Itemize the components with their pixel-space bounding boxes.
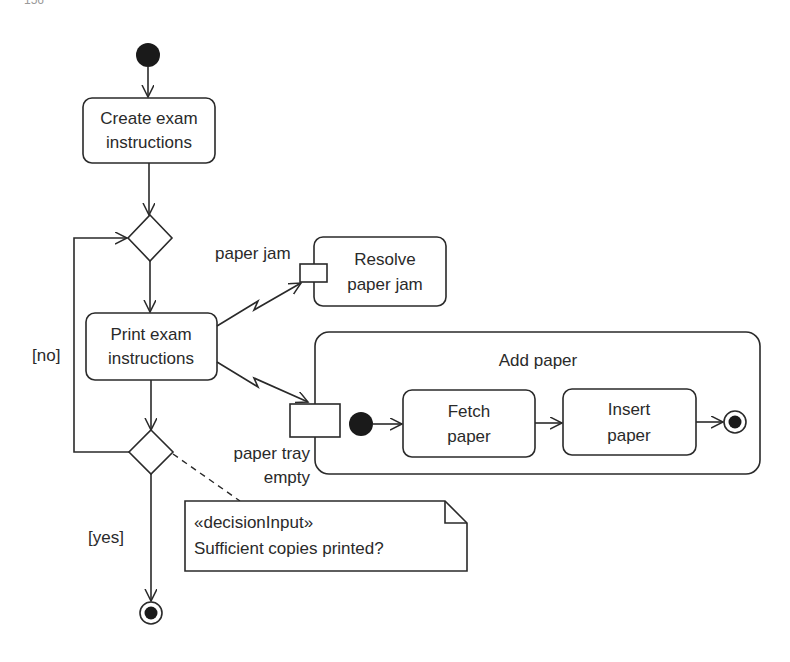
note-text: Sufficient copies printed? [194, 539, 384, 558]
interrupt-label-paper-tray: paper tray [233, 444, 310, 463]
input-pin-resolve [300, 264, 327, 282]
action-label: instructions [106, 133, 192, 152]
action-label: paper [447, 427, 491, 446]
decision-node [129, 430, 173, 474]
interrupt-label-paper-tray: empty [264, 468, 311, 487]
action-label: paper [607, 426, 651, 445]
inner-initial-node [349, 412, 373, 436]
initial-node [136, 43, 160, 67]
page-number: 156 [24, 0, 44, 7]
activity-title: Add paper [499, 351, 578, 370]
activity-diagram: 156 Create exam instructions Print exam … [0, 0, 790, 662]
guard-no: [no] [32, 346, 60, 365]
action-insert-paper[interactable]: Insert paper [563, 389, 696, 455]
action-label: Fetch [448, 402, 491, 421]
action-resolve-paper-jam[interactable]: Resolve paper jam [314, 237, 446, 306]
interrupting-edge-paper-tray-empty [217, 362, 308, 402]
activity-final-node [140, 602, 162, 624]
action-label: Resolve [354, 250, 415, 269]
note-stereotype: «decisionInput» [194, 513, 313, 532]
action-label: instructions [108, 349, 194, 368]
decision-input-note: «decisionInput» Sufficient copies printe… [185, 501, 467, 571]
action-label: Print exam [110, 325, 191, 344]
action-print-exam-instructions[interactable]: Print exam instructions [86, 313, 217, 380]
interrupt-label-paper-jam: paper jam [215, 244, 291, 263]
action-label: paper jam [347, 275, 423, 294]
guard-yes: [yes] [88, 528, 124, 547]
input-pin-add-paper [290, 404, 340, 437]
action-create-exam-instructions[interactable]: Create exam instructions [83, 98, 215, 163]
note-anchor [173, 454, 240, 501]
interrupting-edge-paper-jam [217, 283, 301, 326]
inner-activity-final-node [724, 411, 746, 433]
action-label: Insert [608, 400, 651, 419]
merge-node [128, 215, 172, 261]
action-label: Create exam [100, 109, 197, 128]
action-fetch-paper[interactable]: Fetch paper [403, 390, 535, 457]
